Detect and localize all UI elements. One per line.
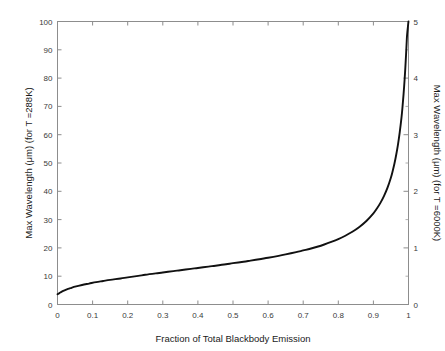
x-tick-label: 0.5	[227, 311, 239, 320]
y-tick-label-right: 4	[414, 74, 419, 83]
y-tick-label-left: 40	[44, 187, 53, 196]
figure-canvas: 00.10.20.30.40.50.60.70.80.91 0102030405…	[0, 0, 445, 351]
y-tick-label-right: 3	[414, 131, 419, 140]
blackbody-emission-chart: 00.10.20.30.40.50.60.70.80.91 0102030405…	[0, 0, 445, 351]
y-tick-label-left: 80	[44, 74, 53, 83]
x-tick-label: 0.2	[122, 311, 134, 320]
y-tick-label-left: 70	[44, 102, 53, 111]
x-tick-label: 0.8	[333, 311, 345, 320]
x-tick-label: 0	[55, 311, 60, 320]
y-tick-label-left: 50	[44, 159, 53, 168]
y-tick-label-right: 0	[414, 301, 419, 310]
y-tick-label-left: 10	[44, 272, 53, 281]
y-axis-right-title: Max Wavelength (μm) (for T =6000K)	[432, 85, 443, 242]
y-tick-label-right: 1	[414, 244, 419, 253]
y-tick-label-left: 100	[39, 18, 53, 27]
y-tick-label-left: 20	[44, 244, 53, 253]
x-tick-label: 0.9	[368, 311, 380, 320]
y-tick-label-right: 5	[414, 18, 419, 27]
x-axis-title: Fraction of Total Blackbody Emission	[155, 333, 310, 344]
y-tick-label-left: 30	[44, 216, 53, 225]
y-tick-label-left: 90	[44, 46, 53, 55]
x-tick-label: 0.1	[87, 311, 99, 320]
y-axis-left-title: Max Wavelength (μm) (for T =288K)	[23, 87, 34, 238]
y-tick-label-left: 60	[44, 131, 53, 140]
y-tick-label-left: 0	[48, 301, 53, 310]
x-tick-label: 0.4	[192, 311, 204, 320]
x-tick-label: 0.6	[263, 311, 275, 320]
x-tick-label: 1	[406, 311, 411, 320]
x-tick-label: 0.3	[157, 311, 169, 320]
x-tick-label: 0.7	[298, 311, 310, 320]
y-tick-label-right: 2	[414, 187, 419, 196]
